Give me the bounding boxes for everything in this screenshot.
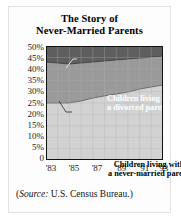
y-tick-5: 5%	[12, 143, 44, 152]
annotation-never-married-line-2: a never-married parent	[99, 169, 181, 178]
source-close-paren: )	[130, 189, 133, 199]
source-text: U.S. Census Bureau.	[48, 189, 129, 199]
source-label: Source:	[19, 189, 48, 199]
y-tick-30: 30%	[12, 87, 44, 96]
y-tick-40: 40%	[12, 65, 44, 74]
x-tick-83: '83	[46, 163, 57, 173]
annotation-divorced-line-1: Children living with	[107, 94, 177, 103]
annotation-never-married: Children living with a never-married par…	[99, 160, 181, 179]
annotation-divorced-line-2: a divorced parent	[107, 103, 177, 112]
title-line-1: The Story of	[8, 13, 171, 25]
x-tick-85: '85	[69, 163, 80, 173]
page-title: The Story of Never-Married Parents	[8, 13, 171, 36]
y-tick-20: 20%	[12, 110, 44, 119]
y-axis: 50% 45% 40% 35% 30% 25% 20% 15% 10% 5% 0	[12, 43, 44, 163]
y-tick-25: 25%	[12, 99, 44, 108]
title-line-2: Never-Married Parents	[8, 25, 171, 37]
annotation-divorced: Children living with a divorced parent	[107, 94, 177, 113]
y-tick-45: 45%	[12, 54, 44, 63]
annotation-never-married-line-1: Children living with	[99, 160, 181, 169]
source-note: (Source: U.S. Census Bureau.)	[16, 189, 133, 200]
plot-area: Children living with a divorced parent C…	[46, 46, 163, 160]
y-tick-35: 35%	[12, 76, 44, 85]
y-tick-50: 50%	[12, 43, 44, 52]
y-tick-0: 0	[12, 154, 44, 163]
y-tick-15: 15%	[12, 121, 44, 130]
chart-figure: The Story of Never-Married Parents 50% 4…	[0, 0, 181, 222]
y-tick-10: 10%	[12, 132, 44, 141]
